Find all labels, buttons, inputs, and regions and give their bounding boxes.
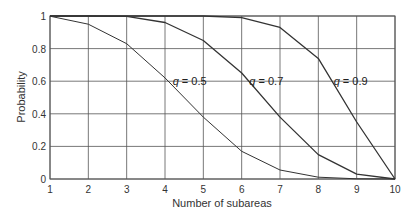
- series-line-09: [50, 16, 395, 179]
- x-tick-label: 4: [162, 184, 168, 195]
- y-tick-label: 1: [40, 11, 46, 22]
- y-tick-label: 0.4: [32, 109, 46, 120]
- y-tick-label: 0: [40, 174, 46, 185]
- x-tick-label: 9: [354, 184, 360, 195]
- y-axis-label: Probability: [15, 71, 27, 123]
- x-tick-label: 6: [239, 184, 245, 195]
- plot-frame: [50, 16, 395, 179]
- x-tick-label: 2: [86, 184, 92, 195]
- x-tick-label: 1: [47, 184, 53, 195]
- x-axis-label: Number of subareas: [172, 197, 272, 209]
- y-tick-label: 0.8: [32, 44, 46, 55]
- curve-annotations: q = 0.5q = 0.7q = 0.9: [173, 75, 368, 87]
- probability-chart: q = 0.5q = 0.7q = 0.9 12345678910 00.20.…: [0, 0, 414, 215]
- x-tick-label: 7: [277, 184, 283, 195]
- x-tick-label: 8: [316, 184, 322, 195]
- grid-lines: [50, 16, 395, 179]
- series-line-05: [50, 16, 395, 179]
- annotation-label: q = 0.5: [173, 75, 207, 87]
- y-axis-ticks: 00.20.40.60.81: [32, 11, 46, 185]
- x-axis-ticks: 12345678910: [47, 184, 401, 195]
- x-tick-label: 3: [124, 184, 130, 195]
- y-tick-label: 0.6: [32, 76, 46, 87]
- series-line-07: [50, 16, 395, 179]
- x-tick-label: 10: [389, 184, 401, 195]
- annotation-label: q = 0.9: [334, 75, 368, 87]
- annotation-label: q = 0.7: [249, 75, 283, 87]
- data-series: [50, 16, 395, 179]
- x-tick-label: 5: [201, 184, 207, 195]
- y-tick-label: 0.2: [32, 141, 46, 152]
